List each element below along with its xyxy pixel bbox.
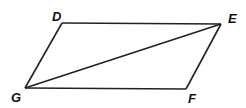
vertex-label-d: D [52, 9, 62, 24]
edge-fg [25, 88, 186, 89]
vertex-label-e: E [228, 11, 237, 26]
vertex-label-g: G [11, 90, 21, 105]
edge-de [62, 23, 221, 24]
parallelogram-diagram: D E F G [0, 0, 246, 108]
vertex-label-f: F [188, 91, 197, 106]
